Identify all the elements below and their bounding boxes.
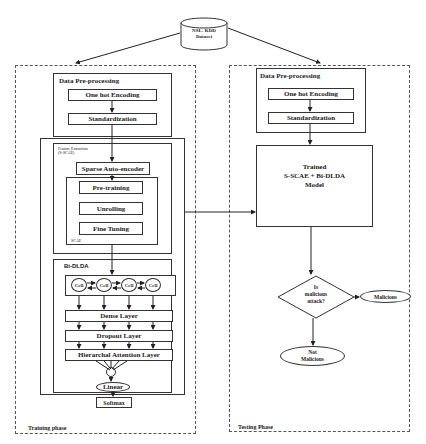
sparse-autoencoder-step: Sparse Auto-encoder: [76, 162, 150, 175]
dataset-cylinder: NSL- KDD Dataset: [180, 17, 228, 51]
decision-line2: malicious: [286, 291, 346, 298]
hierarchal-attention-layer: Hierarchal Attention Layer: [65, 349, 173, 361]
fine-tuning-step: Fine Tuning: [79, 222, 143, 235]
testing-one-hot-encoding-step: One hot Encoding: [268, 88, 354, 100]
training-preprocessing-box: Data Pre-processing: [53, 73, 172, 137]
malicious-outcome: Malicious: [360, 290, 411, 303]
aggregation-node: [106, 367, 116, 377]
decision-line3: attack?: [286, 298, 346, 305]
scae-label: SCAE: [71, 239, 81, 243]
lstm-cell-3: Cell: [121, 278, 137, 292]
training-preprocessing-title: Data Pre-processing: [59, 77, 119, 85]
not-malicious-line2: Malicious: [280, 356, 345, 363]
dense-layer: Dense Layer: [65, 310, 173, 322]
trained-model-label: Trained S-SCAE + Bi-DLDA Model: [256, 163, 373, 190]
training-one-hot-encoding-step: One hot Encoding: [68, 89, 157, 101]
unrolling-step: Unrolling: [79, 202, 143, 215]
training-phase-label: Training phase: [28, 425, 66, 431]
not-malicious-label: Not Malicious: [280, 349, 345, 363]
pre-training-step: Pre-training: [79, 181, 143, 194]
trained-model-line1: Trained: [256, 163, 373, 172]
softmax-layer: Softmax: [96, 397, 132, 408]
testing-phase-label: Testing Phase: [238, 424, 273, 430]
dataset-type: Dataset: [180, 34, 228, 40]
testing-preprocessing-title: Data Pre-processing: [260, 72, 320, 80]
feature-extraction-title: Feature Extraction (S-SCAE): [58, 147, 88, 155]
not-malicious-line1: Not: [280, 349, 345, 356]
decision-line1: Is: [286, 284, 346, 291]
bi-dlda-title: Bi-DLDA: [64, 263, 89, 269]
lstm-cell-1: Cell: [71, 278, 87, 292]
feature-extraction-title-line2: (S-SCAE): [58, 151, 88, 155]
linear-layer: Linear: [96, 382, 130, 392]
dataset-label: NSL- KDD Dataset: [180, 28, 228, 40]
lstm-cell-2: Cell: [96, 278, 112, 292]
trained-model-line2: S-SCAE + Bi-DLDA: [256, 172, 373, 181]
trained-model-line3: Model: [256, 181, 373, 190]
decision-label: Is malicious attack?: [286, 284, 346, 305]
lstm-cell-4: Cell: [145, 278, 161, 292]
dropout-layer: Dropout Layer: [65, 330, 173, 342]
testing-standardization-step: Standardization: [268, 112, 354, 124]
training-standardization-step: Standardization: [68, 113, 157, 125]
